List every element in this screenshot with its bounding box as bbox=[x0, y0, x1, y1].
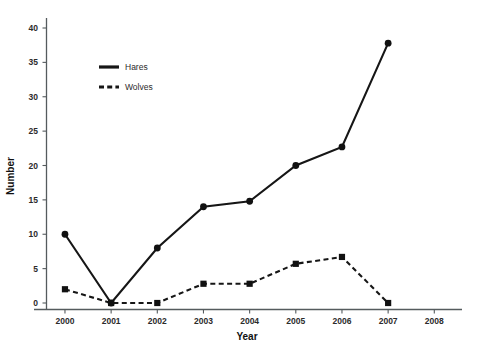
data-point-marker bbox=[246, 198, 253, 205]
x-tick-label: 2008 bbox=[425, 316, 444, 326]
data-point-marker bbox=[339, 144, 346, 151]
y-axis-title: Number bbox=[5, 157, 16, 195]
x-tick-label: 2007 bbox=[379, 316, 398, 326]
legend-label-hares: Hares bbox=[125, 62, 148, 72]
data-point-marker bbox=[339, 254, 345, 260]
y-tick-label: 20 bbox=[29, 161, 39, 171]
y-tick-label: 35 bbox=[29, 57, 39, 67]
chart-container: 0510152025303540 Number 2000200120022003… bbox=[0, 0, 479, 348]
x-tick-label: 2002 bbox=[148, 316, 167, 326]
x-tick-label: 2004 bbox=[240, 316, 259, 326]
x-tick-label: 2000 bbox=[56, 316, 75, 326]
x-tick-label: 2005 bbox=[286, 316, 305, 326]
y-tick-label: 0 bbox=[33, 298, 38, 308]
chart-background bbox=[0, 0, 479, 348]
data-point-marker bbox=[247, 281, 253, 287]
legend-label-wolves: Wolves bbox=[125, 82, 153, 92]
data-point-marker bbox=[154, 300, 160, 306]
x-tick-label: 2001 bbox=[102, 316, 121, 326]
y-tick-label: 15 bbox=[29, 195, 39, 205]
x-tick-label: 2003 bbox=[194, 316, 213, 326]
x-axis-title: Year bbox=[236, 331, 257, 342]
data-point-marker bbox=[200, 203, 207, 210]
y-tick-label: 25 bbox=[29, 126, 39, 136]
line-chart: 0510152025303540 Number 2000200120022003… bbox=[0, 0, 479, 348]
data-point-marker bbox=[108, 300, 114, 306]
data-point-marker bbox=[200, 281, 206, 287]
data-point-marker bbox=[62, 286, 68, 292]
data-point-marker bbox=[62, 231, 69, 238]
data-point-marker bbox=[292, 162, 299, 169]
data-point-marker bbox=[154, 245, 161, 252]
y-tick-label: 5 bbox=[33, 264, 38, 274]
data-point-marker bbox=[293, 261, 299, 267]
y-tick-label: 30 bbox=[29, 92, 39, 102]
data-point-marker bbox=[385, 300, 391, 306]
y-tick-label: 40 bbox=[29, 23, 39, 33]
y-tick-label: 10 bbox=[29, 229, 39, 239]
data-point-marker bbox=[385, 40, 392, 47]
x-tick-label: 2006 bbox=[333, 316, 352, 326]
